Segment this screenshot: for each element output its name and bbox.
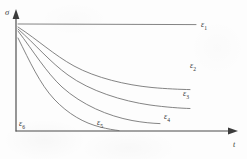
y-axis-title: σ [5,8,9,17]
curve-e4 [18,31,160,124]
plot-canvas [0,0,247,159]
curve-e3 [18,29,190,109]
x-axis-arrowhead [228,128,238,135]
x-axis-title: t [233,141,235,149]
curve-label-e3: ε3 [183,90,189,100]
curve-label-e1-sub: 1 [204,25,207,31]
curve-label-e3-sub: 3 [186,94,189,100]
curve-label-e5: ε5 [97,119,103,129]
curve-label-e6: ε6 [19,120,25,130]
curve-label-e1: ε1 [201,21,207,31]
curve-label-e4-sub: 4 [167,117,170,123]
curve-e1 [18,24,196,25]
curve-label-e6-sub: 6 [22,124,25,130]
y-axis-arrowhead [13,9,20,19]
curve-label-e2: ε2 [190,62,196,72]
stress-relaxation-figure: σ t ε1 ε2 ε3 ε4 ε5 ε6 [0,0,247,159]
curve-label-e5-sub: 5 [100,123,103,129]
curve-label-e4: ε4 [164,113,170,123]
curve-e2 [18,27,190,90]
curve-label-e2-sub: 2 [193,66,196,72]
